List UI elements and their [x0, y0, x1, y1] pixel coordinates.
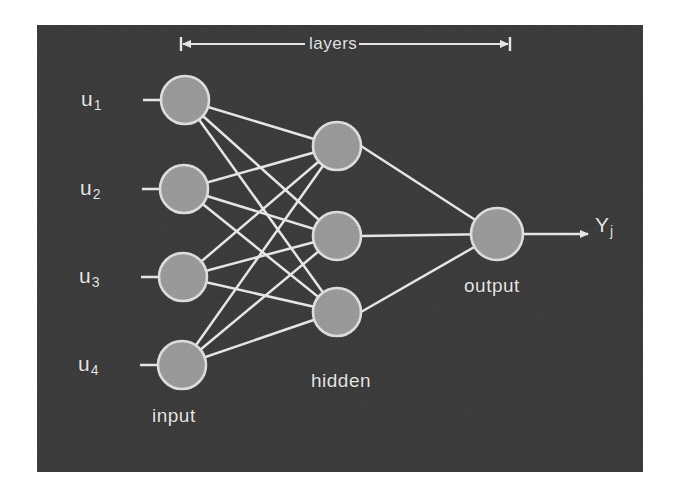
input-node-3[interactable]: [159, 253, 207, 301]
figure-page: | ============ -->: [0, 0, 675, 502]
input-label-u3: u3: [79, 264, 99, 290]
output-layer-nodes: [471, 208, 523, 260]
network-graphic: | ============ -->: [37, 25, 643, 472]
output-node-1[interactable]: [471, 208, 523, 260]
input-node-1[interactable]: [161, 76, 209, 124]
input-feed-arrows: [140, 100, 177, 365]
output-layer-caption: output: [464, 275, 520, 297]
input-label-u4: u4: [78, 352, 98, 378]
hidden-layer-nodes: [313, 122, 361, 336]
hidden-layer-caption: hidden: [311, 370, 371, 392]
diagram-panel: | ============ -->: [37, 25, 643, 472]
input-node-4[interactable]: [158, 341, 206, 389]
input-node-2[interactable]: [160, 165, 208, 213]
layers-span-label: layers: [309, 34, 357, 54]
input-label-u1: u1: [81, 87, 101, 113]
output-signal-label: Yj: [595, 213, 613, 239]
hidden-node-2[interactable]: [313, 212, 361, 260]
input-layer-caption: input: [152, 405, 196, 427]
input-label-u2: u2: [80, 176, 100, 202]
hidden-node-1[interactable]: [313, 122, 361, 170]
hidden-node-3[interactable]: [313, 288, 361, 336]
